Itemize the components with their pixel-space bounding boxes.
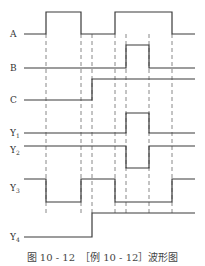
waveform-trace	[24, 179, 195, 202]
transition-guides	[46, 34, 172, 213]
signal-label: C	[10, 95, 17, 105]
signal-y3: Y3	[9, 179, 195, 202]
signal-c: C	[10, 79, 195, 105]
signal-y1: Y1	[9, 113, 195, 139]
waveform-trace	[24, 12, 195, 34]
waveform-trace	[24, 213, 195, 237]
signal-label: B	[10, 63, 17, 73]
signal-b: B	[10, 45, 195, 73]
signal-a: A	[9, 12, 195, 39]
waveform-trace	[24, 45, 195, 68]
waveform-diagram: ABCY1Y2Y3Y4	[0, 0, 205, 266]
waveform-trace	[24, 146, 195, 168]
signal-label: Y3	[9, 183, 20, 194]
signal-y4: Y4	[9, 213, 195, 243]
waveform-trace	[24, 79, 195, 100]
signal-y2: Y2	[9, 145, 195, 168]
signal-label: A	[9, 29, 17, 39]
figure-caption: 图 10 - 12 ［例 10 - 12］波形图	[0, 249, 205, 264]
waveform-trace	[24, 113, 195, 133]
signal-label: Y2	[9, 145, 20, 156]
signal-label: Y4	[9, 232, 20, 243]
signal-label: Y1	[9, 128, 20, 139]
